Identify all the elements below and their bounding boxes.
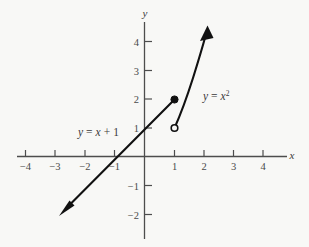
annotation-parabola-equation: y=x2: [202, 89, 230, 103]
figure-background: [0, 0, 309, 247]
x-axis-label: x: [289, 149, 295, 161]
y-tick-label-4: 4: [134, 37, 140, 48]
filled-endpoint-marker: [171, 96, 178, 103]
annotation-parabola-y: y: [202, 90, 209, 103]
x-tick-label-4: 4: [260, 161, 266, 172]
x-tick-label-neg2: −2: [79, 161, 90, 172]
x-tick-label-2: 2: [201, 161, 206, 172]
svg-text:y=x2: y=x2: [202, 89, 230, 103]
x-tick-label-3: 3: [231, 161, 236, 172]
x-tick-label-1: 1: [172, 161, 177, 172]
open-endpoint-marker: [171, 125, 178, 132]
y-tick-label-2: 2: [134, 94, 139, 105]
y-tick-label-neg2: −2: [128, 210, 139, 221]
x-tick-label-neg4: −4: [20, 161, 32, 172]
annotation-line-one: 1: [113, 126, 119, 138]
x-tick-label-neg3: −3: [49, 161, 60, 172]
coordinate-plane-svg: −4 −3 −2 −1 1 2 3 4 4 3 2 1 −1 −2 x y y=…: [0, 0, 309, 247]
y-tick-label-3: 3: [134, 66, 139, 77]
annotation-line-equals: =: [86, 126, 93, 138]
graph-figure: −4 −3 −2 −1 1 2 3 4 4 3 2 1 −1 −2 x y y=…: [0, 0, 309, 247]
y-axis-label: y: [142, 7, 148, 19]
annotation-parabola-equals: =: [211, 90, 218, 102]
annotation-line-plus: +: [104, 126, 111, 138]
y-tick-label-1: 1: [134, 123, 139, 134]
annotation-line-y: y: [77, 126, 84, 139]
annotation-line-x: x: [95, 126, 102, 138]
annotation-parabola-exponent: 2: [226, 89, 230, 98]
y-tick-label-neg1: −1: [128, 181, 139, 192]
